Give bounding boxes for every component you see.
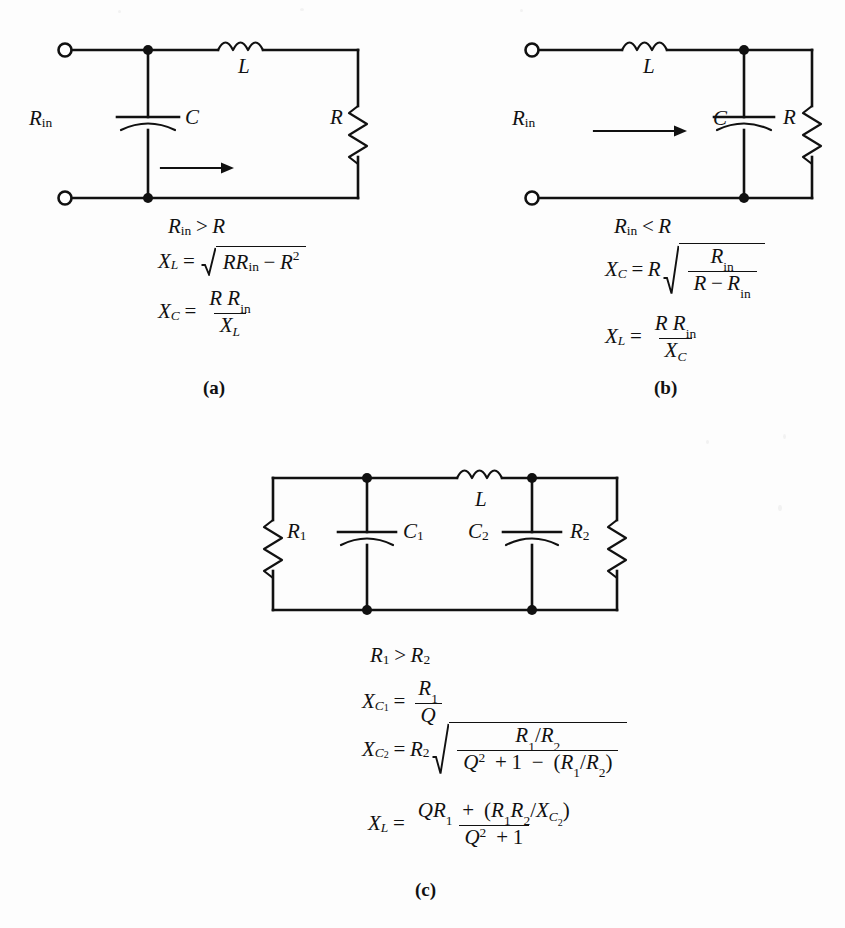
eq-a1-r3: R xyxy=(280,252,293,273)
condition-a: Rin > R xyxy=(168,216,225,237)
eq-b2-num-r1: R xyxy=(655,311,668,335)
eq-a1-x-sub: L xyxy=(171,258,178,271)
cond-b-rel: < xyxy=(642,216,654,237)
terminal-bottom-b xyxy=(526,192,539,205)
eq-b1-den-in: in xyxy=(740,287,750,300)
cond-a-lhs-sub: in xyxy=(181,224,191,237)
eq-c3-num-xc2: 2 xyxy=(558,818,563,828)
junction-dot xyxy=(143,45,153,55)
label-resistor-b: R xyxy=(783,107,796,128)
eq-a1-rel: = xyxy=(183,251,195,272)
junction-dot xyxy=(527,473,537,483)
eq-c2-den-r1s: 1 xyxy=(573,766,580,779)
cond-a-lhs: R xyxy=(168,216,181,237)
eq-c2-num-r1s: 1 xyxy=(528,740,535,753)
eq-c1-x-sub: C xyxy=(375,699,384,712)
equation-b-xc: XC = R Rin R−Rin xyxy=(605,243,765,296)
resistor-symbol-b: R xyxy=(783,107,796,128)
eq-c3-num-r1b: R xyxy=(491,798,504,822)
equation-a-xl: XL = RRin − R2 xyxy=(158,246,306,276)
eq-a1-in: in xyxy=(248,260,258,273)
eq-c3-den-one: 1 xyxy=(513,825,524,849)
eq-c2-den-rp: ) xyxy=(605,750,612,774)
eq-b2-num-r2: R xyxy=(673,311,686,335)
fraction-a2: R Rin XL xyxy=(203,288,256,336)
label-inductor-a: L xyxy=(238,56,250,77)
eq-c3-num-r1: R xyxy=(433,798,446,822)
eq-b1-coef: R xyxy=(648,259,661,280)
junction-dot xyxy=(362,605,372,615)
eq-c3-num-rp: ) xyxy=(563,798,570,822)
eq-a1-sq: 2 xyxy=(293,249,300,262)
r1-sym: R xyxy=(287,521,300,542)
scan-speckle xyxy=(520,9,523,12)
cond-c-lhs-sub: 1 xyxy=(383,653,390,666)
c2-sub: 2 xyxy=(482,529,489,542)
eq-b2-den-x: X xyxy=(665,338,678,362)
eq-c2-x-sub2: 2 xyxy=(384,750,389,760)
scan-speckle xyxy=(706,440,709,444)
panel-caption-b: (b) xyxy=(654,377,677,399)
eq-c2-den-r2s: 2 xyxy=(599,766,606,779)
eq-c2-num-r1: R xyxy=(515,723,528,747)
eq-c3-den-q: Q xyxy=(464,825,479,849)
eq-c3-num-r1bs: 1 xyxy=(504,814,511,827)
eq-c3-num-r2: R xyxy=(511,798,524,822)
eq-a2-num-in: in xyxy=(240,302,250,315)
inductor-symbol-c: L xyxy=(475,489,487,510)
equation-c-xl: XL = QR1 + (R1R2/XC2) Q2 +1 xyxy=(368,800,578,848)
eq-a2-x: X xyxy=(158,301,171,322)
scan-speckle xyxy=(118,10,121,13)
eq-b1-rel: = xyxy=(631,259,643,280)
caption-text-a: (a) xyxy=(203,377,225,398)
eq-c2-den-r2: R xyxy=(586,750,599,774)
caption-text-b: (b) xyxy=(654,377,677,398)
eq-b1-x: X xyxy=(605,259,618,280)
r2-sym: R xyxy=(570,521,583,542)
eq-c2-den-qsq: 2 xyxy=(478,751,485,764)
inductor-symbol-b: L xyxy=(643,56,655,77)
eq-c3-den-qsq: 2 xyxy=(480,826,487,839)
eq-c1-rel: = xyxy=(393,691,405,712)
eq-a2-den-x: X xyxy=(220,313,233,337)
eq-b2-den-sub: C xyxy=(677,350,686,363)
rin-r-b: R xyxy=(512,108,525,129)
equation-c-xc1: XC1 = R1 Q xyxy=(362,678,446,726)
label-inductor-c: L xyxy=(475,489,487,510)
fraction-c1: R1 Q xyxy=(412,678,443,726)
label-resistor-r2-c: R2 xyxy=(570,521,590,542)
capacitor-symbol-b: C xyxy=(713,108,727,129)
equation-c-xc2: XC2 = R2 R1/R2 Q2 +1 − (R1/R2) xyxy=(362,722,627,776)
equation-a-xc: XC = R Rin XL xyxy=(158,288,259,336)
eq-c2-coef: R xyxy=(410,739,423,760)
junction-dot xyxy=(739,193,749,203)
eq-c2-den-plus: + xyxy=(495,750,507,774)
cond-b-lhs-sub: in xyxy=(627,224,637,237)
cond-c-rhs: R xyxy=(411,645,424,666)
radical-c2: R1/R2 Q2 +1 − (R1/R2) xyxy=(432,722,628,776)
fraction-b1: Rin R−Rin xyxy=(688,246,757,296)
label-capacitor-b: C xyxy=(713,108,727,129)
eq-c2-den-one: 1 xyxy=(511,750,522,774)
eq-b1-num-r: R xyxy=(710,244,723,268)
eq-c2-rel: = xyxy=(393,739,405,760)
eq-c3-num-lp: ( xyxy=(484,798,491,822)
label-capacitor-c1-c: C1 xyxy=(403,521,424,542)
label-inductor-b: L xyxy=(643,56,655,77)
junction-dot xyxy=(143,193,153,203)
terminal-top-a xyxy=(59,44,72,57)
eq-a1-r1: R xyxy=(223,252,236,273)
eq-b2-rel: = xyxy=(630,326,642,347)
terminal-top-b xyxy=(526,44,539,57)
eq-a1-minus: − xyxy=(263,252,275,273)
rin-sub-b: in xyxy=(525,116,535,129)
eq-c3-num-x: X xyxy=(536,798,549,822)
c1-sym: C xyxy=(403,521,417,542)
eq-b2-x-sub: L xyxy=(618,334,625,347)
equation-b-xl: XL = R Rin XC xyxy=(605,313,705,361)
eq-c3-rel: = xyxy=(393,813,405,834)
eq-c3-x: X xyxy=(368,813,381,834)
label-input-resistance-b: Rin xyxy=(512,108,535,129)
label-capacitor-a: C xyxy=(185,107,199,128)
resistor-symbol-a: R xyxy=(330,107,343,128)
